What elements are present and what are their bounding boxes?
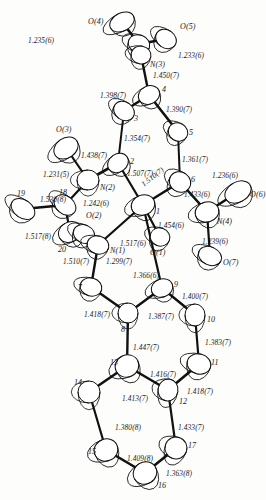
atom-label-C16: 16 <box>158 482 166 490</box>
atom-label-O1: O(1) <box>150 249 166 257</box>
bond-length-label: 1.409(8) <box>127 455 153 462</box>
atom-label-C7: 7 <box>78 284 82 292</box>
bond-length-label: 1.299(7) <box>106 258 132 265</box>
atom-label-O7: O(7) <box>223 259 239 267</box>
atom-label-N1: N(1) <box>110 247 125 255</box>
atom-label-C3: 3 <box>134 115 138 123</box>
bond-length-label: 1.413(7) <box>122 395 148 402</box>
ellipsoid-outline <box>77 170 99 190</box>
bond-length-label: 1.233(6) <box>178 52 204 59</box>
bond-length-label: 1.530(8) <box>40 196 66 203</box>
atom-label-O3: O(3) <box>56 126 72 134</box>
ellipsoid-outline <box>135 82 163 108</box>
atom-label-O5: O(5) <box>180 23 196 31</box>
bond-length-label: 1.418(7) <box>84 311 110 318</box>
ellipsoid-outline <box>118 303 138 323</box>
ortep-figure: O(4)O(5)N(3)4352O(3)N(2)61181920O(2)N(1)… <box>0 0 266 500</box>
atom-label-C5: 5 <box>189 129 193 137</box>
atom-ellipsoid-C9 <box>142 276 177 308</box>
atom-label-C12: 12 <box>179 398 187 406</box>
atom-label-C10: 10 <box>207 316 215 324</box>
bond-length-label: 1.416(7) <box>150 371 176 378</box>
bond-length-label: 1.400(7) <box>182 293 208 300</box>
bond-length-label: 1.387(7) <box>148 313 174 320</box>
bond-length-label: 1.242(6) <box>83 200 109 207</box>
atom-label-C4: 4 <box>162 86 166 94</box>
ellipsoid-outline <box>152 25 180 52</box>
bond-length-label: 1.433(6) <box>184 191 210 198</box>
atom-label-C13: 13 <box>110 359 118 367</box>
atom-ellipsoid-C13 <box>105 351 146 390</box>
atom-ellipsoid-C7 <box>70 274 104 304</box>
bond-length-label: 1.517(6) <box>120 240 146 247</box>
atom-ellipsoid-C5 <box>157 116 191 149</box>
atom-label-C20: 20 <box>58 246 66 254</box>
atom-label-N2: N(2) <box>100 184 115 192</box>
ellipsoid-outline <box>162 434 190 462</box>
bond-length-label: 1.390(7) <box>166 106 192 113</box>
atom-label-O4: O(4) <box>88 18 104 26</box>
atom-label-C15: 15 <box>88 448 96 456</box>
bond-length-label: 1.236(6) <box>212 172 238 179</box>
atom-ellipsoid-N2 <box>70 170 99 196</box>
atom-label-C1: 1 <box>156 208 160 216</box>
ellipsoid-outline <box>185 304 205 326</box>
atom-label-C19: 19 <box>17 190 25 198</box>
bond-length-label: 1.354(7) <box>124 135 150 142</box>
bond-length-label: 1.438(7) <box>81 152 107 159</box>
bond-length-label: 1.231(5) <box>43 171 69 178</box>
atom-ellipsoid-C10 <box>179 304 205 333</box>
bond-length-label: 1.239(6) <box>202 238 228 245</box>
atom-label-N4: N(4) <box>217 218 232 226</box>
bond-length-label: 1.517(8) <box>25 233 51 240</box>
atom-label-N3: N(3) <box>150 61 165 69</box>
bond-length-label: 1.450(7) <box>153 72 179 79</box>
atom-label-O6: O(6) <box>250 191 266 199</box>
atom-label-C2: 2 <box>130 158 134 166</box>
atom-label-C11: 11 <box>211 359 219 367</box>
atom-label-C6: 6 <box>191 176 195 184</box>
atom-label-O2: O(2) <box>86 212 102 220</box>
atom-label-C14: 14 <box>74 379 82 387</box>
bond-length-label: 1.366(6) <box>133 272 159 279</box>
bond-length-label: 1.363(8) <box>166 470 192 477</box>
atom-label-C8: 8 <box>121 326 125 334</box>
bond-length-label: 1.433(7) <box>178 424 204 431</box>
ellipsoid-outline <box>165 119 191 145</box>
bond-length-label: 1.418(7) <box>187 388 213 395</box>
bond-length-label: 1.361(7) <box>182 156 208 163</box>
atom-label-C9: 9 <box>174 281 178 289</box>
bond-length-label: 1.454(6) <box>158 222 184 229</box>
bond-length-label: 1.380(8) <box>115 424 141 431</box>
bond-length-label: 1.398(7) <box>100 92 126 99</box>
atom-label-C17: 17 <box>188 442 196 450</box>
bond-length-label: 1.447(7) <box>133 344 159 351</box>
bond-length-label: 1.510(7) <box>63 258 89 265</box>
bond-length-label: 1.235(6) <box>28 37 54 44</box>
bond-length-label: 1.383(7) <box>205 339 231 346</box>
